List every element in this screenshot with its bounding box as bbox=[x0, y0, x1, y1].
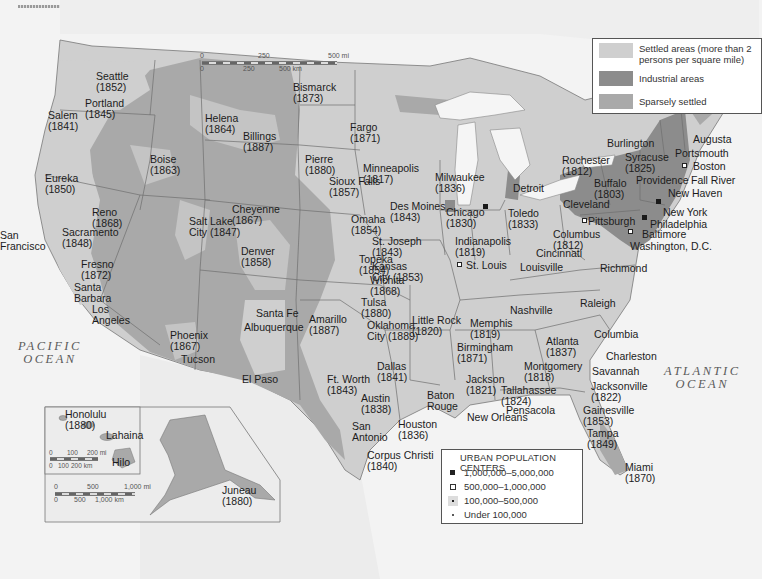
legend-settled: Settled areas (more than 2 persons per s… bbox=[599, 43, 751, 65]
city-label: Billings (1887) bbox=[243, 131, 276, 153]
city-label: Fresno (1872) bbox=[81, 259, 114, 281]
city-label: Montgomery (1818) bbox=[524, 361, 582, 383]
city-label: Columbia bbox=[594, 329, 638, 340]
ak-mi-500: 500 bbox=[87, 483, 99, 490]
scale-mi-250: 250 bbox=[258, 52, 270, 59]
city-label: Toledo (1833) bbox=[508, 208, 539, 230]
legend-label-1m-5m: 1,000,000–5,000,000 bbox=[464, 467, 554, 478]
legend-row-100k-500k: 100,000–500,000 bbox=[448, 495, 538, 506]
city-label: Charleston bbox=[606, 351, 657, 362]
city-label: Helena (1864) bbox=[205, 113, 238, 135]
city-label: Savannah bbox=[592, 366, 639, 377]
city-label: Austin (1838) bbox=[361, 393, 391, 415]
sparsely-label: Sparsely settled bbox=[639, 94, 707, 107]
city-label: New Haven bbox=[668, 188, 722, 199]
city-label: Detroit bbox=[513, 183, 544, 194]
city-label: Eureka (1850) bbox=[45, 173, 78, 195]
city-label: Burlington bbox=[607, 138, 654, 149]
ak-km-1000: 1,000 km bbox=[95, 496, 124, 503]
philadelphia-marker-icon bbox=[642, 215, 647, 220]
pacific-ocean-label: PACIFIC OCEAN bbox=[18, 340, 82, 366]
industrial-swatch bbox=[599, 71, 633, 86]
city-label: Albuquerque bbox=[244, 322, 304, 333]
city-label: Seattle (1852) bbox=[96, 71, 129, 93]
city-label: Salt Lake City (1847) bbox=[189, 216, 240, 238]
city-label: Raleigh bbox=[580, 298, 616, 309]
city-label: Tampa (1849) bbox=[587, 428, 619, 450]
city-label: Topeka (1854) bbox=[359, 254, 393, 276]
legend-label-100k-500k: 100,000–500,000 bbox=[464, 495, 538, 506]
city-label: Cleveland bbox=[563, 199, 610, 210]
settled-swatch bbox=[599, 43, 633, 58]
city-label: El Paso bbox=[242, 374, 278, 385]
ak-mi-1000: 1,000 mi bbox=[124, 483, 151, 490]
city-label: Los Angeles bbox=[92, 304, 130, 326]
scale-bar-line bbox=[202, 61, 337, 65]
filled-square-icon bbox=[448, 468, 458, 478]
city-label: Dallas (1841) bbox=[377, 361, 407, 383]
city-label: Jacksonville (1822) bbox=[591, 381, 648, 403]
city-label: Little Rock (1820) bbox=[412, 315, 461, 337]
city-label: Des Moines (1843) bbox=[390, 201, 445, 223]
hi-km-100: 100 bbox=[58, 462, 69, 469]
st-louis-marker-icon bbox=[457, 262, 462, 267]
city-label: Milwaukee (1836) bbox=[435, 172, 485, 194]
open-square-icon bbox=[448, 482, 458, 492]
sparsely-swatch bbox=[599, 94, 633, 109]
ak-mi-0: 0 bbox=[54, 483, 58, 490]
city-label: Buffalo (1803) bbox=[594, 178, 627, 200]
city-label: Honolulu (1880) bbox=[65, 409, 106, 431]
city-label: Baltimore bbox=[642, 229, 686, 240]
city-label: Chicago (1830) bbox=[446, 207, 485, 229]
dot-in-square-icon bbox=[448, 496, 458, 506]
city-label: San Antonio bbox=[352, 421, 388, 443]
city-label: Jackson (1821) bbox=[466, 374, 505, 396]
city-label: Pittsburgh bbox=[588, 216, 635, 227]
scale-mi-0: 0 bbox=[200, 52, 204, 59]
city-label: Houston (1836) bbox=[398, 419, 437, 441]
main-scale-bar: 0 250 500 mi 0 250 500 km bbox=[200, 52, 350, 74]
city-label: Washington, D.C. bbox=[630, 241, 712, 252]
legend-row-500k-1m: 500,000–1,000,000 bbox=[448, 481, 546, 492]
hi-km-0: 0 bbox=[49, 462, 53, 469]
new-york-marker-icon bbox=[656, 199, 661, 204]
city-label: Corpus Christi (1840) bbox=[367, 450, 434, 472]
city-label: Syracuse (1825) bbox=[625, 152, 669, 174]
city-label: Atlanta (1837) bbox=[546, 336, 579, 358]
city-label: Indianapolis (1819) bbox=[455, 236, 511, 258]
city-label: Tulsa (1880) bbox=[361, 297, 391, 319]
legend-row-1m-5m: 1,000,000–5,000,000 bbox=[448, 467, 554, 478]
city-label: Juneau (1880) bbox=[222, 485, 256, 507]
settled-label: Settled areas (more than 2 persons per s… bbox=[639, 43, 751, 65]
atlantic-ocean-label: ATLANTIC OCEAN bbox=[664, 365, 741, 391]
chicago-marker-icon bbox=[483, 204, 488, 209]
scale-km-250: 250 bbox=[243, 65, 255, 72]
city-label: Pierre (1880) bbox=[305, 154, 335, 176]
boston-marker-icon bbox=[682, 163, 687, 168]
scale-km-500: 500 km bbox=[279, 65, 302, 72]
hi-km-200: 200 km bbox=[71, 462, 92, 469]
legend-label-under-100k: Under 100,000 bbox=[464, 509, 527, 520]
legend-industrial: Industrial areas bbox=[599, 71, 704, 86]
pittsburgh-marker-icon bbox=[582, 218, 587, 223]
city-label: Baton Rouge bbox=[427, 390, 458, 412]
city-label: Tucson bbox=[181, 354, 215, 365]
city-label: Miami (1870) bbox=[625, 462, 655, 484]
hawaii-scale-bar: 0 100 200 mi 0 100 200 km bbox=[49, 449, 109, 471]
city-label: Salem (1841) bbox=[48, 110, 78, 132]
city-label: Sacramento (1848) bbox=[62, 227, 119, 249]
hi-mi-200: 200 mi bbox=[87, 449, 107, 456]
city-label: Oklahoma City (1889) bbox=[367, 320, 418, 342]
baltimore-marker-icon bbox=[628, 229, 633, 234]
city-label: Louisville bbox=[520, 262, 563, 273]
city-label: Wichita (1868) bbox=[370, 275, 404, 297]
dot-icon bbox=[448, 510, 458, 520]
legend-sparsely: Sparsely settled bbox=[599, 94, 707, 109]
city-label: Omaha (1854) bbox=[351, 214, 385, 236]
city-label: Augusta bbox=[693, 134, 732, 145]
legend-label-500k-1m: 500,000–1,000,000 bbox=[464, 481, 546, 492]
ak-km-500: 500 bbox=[74, 496, 86, 503]
city-label: Gainesville (1853) bbox=[583, 405, 634, 427]
industrial-label: Industrial areas bbox=[639, 71, 704, 84]
city-label: Boston bbox=[693, 161, 726, 172]
